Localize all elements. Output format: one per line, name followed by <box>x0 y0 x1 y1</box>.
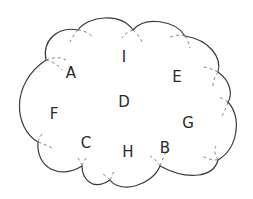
letter-d: D <box>118 95 130 110</box>
dashed-arc <box>46 60 62 70</box>
letter-e: E <box>172 70 181 85</box>
letter-c: C <box>81 136 91 151</box>
letter-f: F <box>50 107 59 122</box>
letter-g: G <box>182 116 194 131</box>
letter-b: B <box>160 141 170 156</box>
dashed-arc <box>222 102 228 116</box>
dashed-arc <box>218 96 228 102</box>
dashed-arc <box>185 36 190 48</box>
dashed-arc <box>150 156 160 166</box>
dashed-arc <box>76 156 82 166</box>
dashed-arc <box>78 30 94 38</box>
dashed-arc <box>70 30 78 42</box>
dashed-arc <box>110 172 114 180</box>
dashed-arc <box>168 35 185 38</box>
dashed-arc <box>215 146 218 160</box>
letter-a: A <box>66 66 76 81</box>
dashed-arc <box>46 58 66 60</box>
dashed-arc <box>38 132 44 142</box>
dashed-arc <box>202 156 218 160</box>
dashed-arc <box>202 67 218 72</box>
dashed-arc <box>102 173 110 180</box>
dashed-arc <box>82 156 88 166</box>
dashed-arc <box>213 72 218 86</box>
dashed-arc <box>133 30 142 42</box>
letter-h: H <box>122 145 133 160</box>
dashed-arc <box>122 30 133 38</box>
letter-i: I <box>122 50 126 65</box>
dashed-arc <box>38 142 52 148</box>
